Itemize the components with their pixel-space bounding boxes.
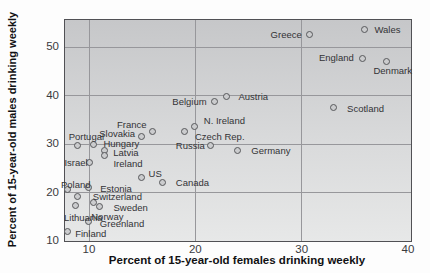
- x-axis-tick-label: 10: [83, 243, 96, 256]
- data-point-label: N. Ireland: [204, 116, 245, 126]
- data-point-label: Greece: [271, 30, 302, 40]
- data-point-label: Canada: [176, 178, 209, 188]
- data-point-label: Sweden: [113, 203, 147, 213]
- data-point: [383, 58, 390, 65]
- data-point: [330, 104, 337, 111]
- data-point: [96, 203, 103, 210]
- data-point-label: Belgium: [172, 97, 206, 107]
- y-axis-tick-label: 40: [31, 89, 59, 102]
- data-point: [191, 123, 198, 130]
- data-point: [181, 128, 188, 135]
- data-point-label: Latvia: [113, 148, 138, 158]
- y-axis-title: Percent of 15-year-old males drinking we…: [6, 7, 21, 253]
- data-point-label: Scotland: [347, 104, 384, 114]
- data-point: [207, 142, 214, 149]
- x-axis-tick-label: 40: [402, 243, 415, 256]
- scatterplot-figure: Percent of 15-year-old males drinking we…: [0, 0, 430, 273]
- data-point: [101, 152, 108, 159]
- data-point-label: Lithuania: [64, 213, 103, 223]
- data-point-label: Germany: [251, 146, 290, 156]
- data-point-label: Russia: [176, 141, 205, 151]
- gridline-horizontal: [65, 47, 411, 48]
- data-point-label: Greenland: [100, 219, 144, 229]
- data-point-label: Poland: [61, 180, 91, 190]
- data-point-label: England: [319, 53, 354, 63]
- y-axis-tick-label: 30: [31, 137, 59, 150]
- data-point: [306, 31, 313, 38]
- data-point: [72, 202, 79, 209]
- data-point: [223, 93, 230, 100]
- y-axis-tick-label: 10: [31, 234, 59, 247]
- data-point: [159, 179, 166, 186]
- gridline-vertical: [301, 20, 302, 241]
- data-point: [74, 193, 81, 200]
- data-point-label: Ireland: [113, 159, 142, 169]
- y-axis-tick-label: 20: [31, 186, 59, 199]
- data-point-label: Portugal: [69, 132, 104, 142]
- data-point-label: Wales: [374, 25, 400, 35]
- data-point-label: Finland: [75, 229, 106, 239]
- data-point-label: Israel: [64, 158, 87, 168]
- data-point: [234, 147, 241, 154]
- data-point: [211, 98, 218, 105]
- data-point: [64, 228, 71, 235]
- data-point: [138, 174, 145, 181]
- data-point: [74, 142, 81, 149]
- x-axis-title: Percent of 15-year-old females drinking …: [64, 254, 410, 266]
- data-point: [359, 55, 366, 62]
- data-point: [149, 128, 156, 135]
- data-point-label: Austria: [238, 92, 268, 102]
- data-point: [361, 26, 368, 33]
- y-axis-tick-label: 50: [31, 40, 59, 53]
- x-axis-tick-label: 30: [295, 243, 308, 256]
- x-axis-tick-label: 20: [189, 243, 202, 256]
- data-point-label: US: [149, 169, 162, 179]
- plot-area: WalesGreeceEnglandDenmarkAustriaBelgiumS…: [64, 19, 412, 242]
- data-point-label: Denmark: [373, 66, 412, 76]
